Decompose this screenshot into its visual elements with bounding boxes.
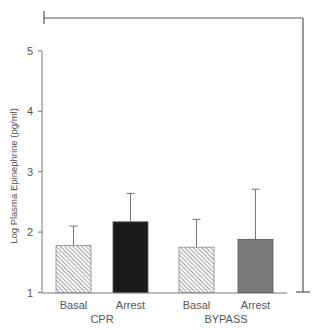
category-labels: BasalArrestBasalArrest	[60, 299, 270, 311]
bars	[56, 189, 273, 292]
y-tick-label: 2	[27, 226, 33, 238]
y-tick-label: 5	[27, 45, 33, 57]
bar-cpr-arrest	[113, 222, 148, 293]
category-label: Arrest	[116, 299, 145, 311]
y-tick-label: 1	[27, 287, 33, 299]
y-axis-title: Log Plasma Epinephrine (pg/ml)	[8, 108, 19, 244]
bar-chart: 12345 BasalArrestBasalArrest CPRBYPASS L…	[0, 0, 317, 331]
group-labels: CPRBYPASS	[90, 313, 247, 325]
y-tick-label: 4	[27, 105, 33, 117]
group-label-cpr: CPR	[90, 313, 113, 325]
y-tick-label: 3	[27, 166, 33, 178]
bar-cpr-basal	[56, 245, 91, 292]
bar-bypass-arrest	[238, 239, 273, 292]
y-ticks: 12345	[27, 45, 42, 299]
bar-bypass-basal	[179, 247, 214, 292]
group-label-bypass: BYPASS	[204, 313, 247, 325]
category-label: Arrest	[241, 299, 270, 311]
category-label: Basal	[60, 299, 88, 311]
category-label: Basal	[183, 299, 211, 311]
